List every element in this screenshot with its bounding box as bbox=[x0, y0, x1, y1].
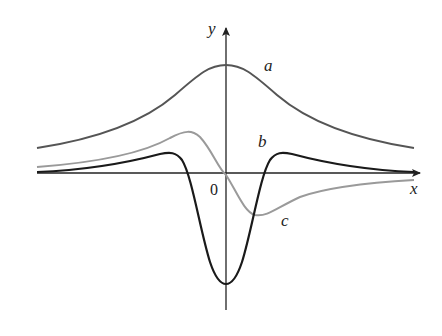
x-axis-label: x bbox=[410, 180, 418, 197]
curve-a-label: a bbox=[264, 57, 273, 74]
plot-canvas bbox=[0, 0, 442, 336]
curve-c-label: c bbox=[281, 212, 289, 229]
origin-label: 0 bbox=[210, 182, 218, 198]
y-axis-label: y bbox=[208, 20, 216, 37]
curve-b-label: b bbox=[258, 133, 267, 150]
graph-figure: y x 0 a b c bbox=[0, 0, 442, 336]
